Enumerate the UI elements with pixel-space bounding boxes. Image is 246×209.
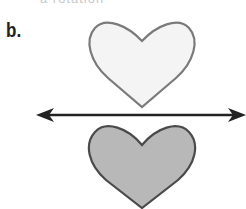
- line-of-reflection: [36, 108, 246, 122]
- reflection-diagram: [0, 0, 246, 209]
- top-heart: [89, 23, 194, 107]
- bottom-heart: [89, 126, 195, 208]
